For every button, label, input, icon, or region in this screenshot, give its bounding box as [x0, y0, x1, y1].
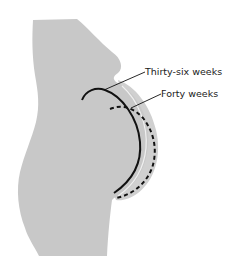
pregnancy-fundal-height-diagram: Thirty-six weeks Forty weeks [0, 0, 225, 263]
body-silhouette [18, 19, 148, 256]
thirty-six-weeks-label: Thirty-six weeks [145, 67, 222, 77]
body-silhouette-svg [0, 0, 225, 263]
forty-weeks-label: Forty weeks [161, 89, 218, 99]
